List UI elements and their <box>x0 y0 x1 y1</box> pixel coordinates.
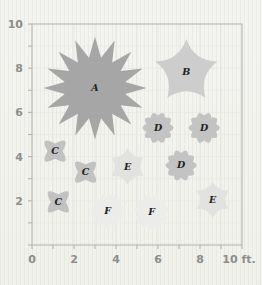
plant-symbol-d[interactable]: D <box>142 113 173 143</box>
plant-symbol-c[interactable]: C <box>44 140 65 161</box>
symbol-letter: F <box>103 205 112 216</box>
plant-symbols-layer: ABDDDCCCEEFF <box>44 37 229 230</box>
y-tick-label: 4 <box>15 151 23 164</box>
y-tick-label: 10 <box>8 18 24 31</box>
plant-symbol-d[interactable]: D <box>165 150 196 180</box>
y-tick-label: 8 <box>15 62 23 75</box>
x-axis-unit-label: 10 ft. <box>222 253 255 266</box>
y-tick-label: 2 <box>15 195 23 208</box>
plant-symbol-e[interactable]: E <box>197 181 229 218</box>
symbol-letter: E <box>208 194 217 205</box>
y-tick-label: 6 <box>15 106 23 119</box>
plant-symbol-c[interactable]: C <box>48 191 69 212</box>
symbol-letter: A <box>90 82 98 93</box>
plant-symbol-a[interactable]: A <box>44 37 147 140</box>
symbol-letter: F <box>147 206 156 217</box>
x-tick-label: 8 <box>196 253 204 266</box>
symbol-letter: B <box>181 66 190 77</box>
plant-symbol-c[interactable]: C <box>75 161 96 182</box>
x-tick-label: 6 <box>154 253 162 266</box>
symbol-letter: E <box>123 161 132 172</box>
x-tick-label: 4 <box>112 253 120 266</box>
plant-symbol-e[interactable]: E <box>112 148 144 185</box>
symbol-letter: D <box>199 122 209 133</box>
x-tick-label: 0 <box>28 253 36 266</box>
symbol-letter: C <box>51 145 59 156</box>
x-tick-label: 2 <box>70 253 78 266</box>
garden-plan-chart: ABDDDCCCEEFF 02468 246810 10 ft. <box>0 0 262 285</box>
symbol-letter: D <box>153 122 163 133</box>
symbol-letter: C <box>54 196 62 207</box>
y-axis-tick-labels: 246810 <box>8 18 24 208</box>
symbol-letter: C <box>82 166 90 177</box>
x-axis-unit-label-text: 10 ft. <box>222 253 255 266</box>
x-axis-tick-labels: 02468 <box>28 253 204 266</box>
plant-symbol-f[interactable]: F <box>135 195 169 229</box>
figure-canvas: ABDDDCCCEEFF 02468 246810 10 ft. <box>0 0 262 285</box>
plant-symbol-d[interactable]: D <box>189 113 220 143</box>
symbol-letter: D <box>176 159 186 170</box>
plant-symbol-b[interactable]: B <box>155 39 217 98</box>
